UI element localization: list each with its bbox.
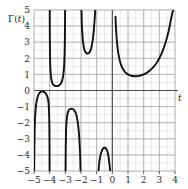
x-tick-label: −4 xyxy=(43,175,57,185)
y-tick-label: −4 xyxy=(17,150,31,160)
y-axis-tick-labels: −5−4−3−2−1012345 xyxy=(17,5,31,176)
chart-canvas: −5−4−3−2−101234 −5−4−3−2−1012345 Γ(t) t xyxy=(0,0,188,189)
x-tick-label: −1 xyxy=(90,175,103,185)
tick-marks xyxy=(34,171,175,174)
y-tick-label: −5 xyxy=(17,166,31,176)
x-tick-label: 2 xyxy=(141,175,147,185)
y-tick-label: −3 xyxy=(17,134,31,144)
x-axis-tick-labels: −5−4−3−2−101234 xyxy=(27,175,178,185)
x-tick-label: 4 xyxy=(172,175,178,185)
gamma-function-chart: −5−4−3−2−101234 −5−4−3−2−1012345 Γ(t) t xyxy=(0,0,188,189)
x-tick-label: −2 xyxy=(74,175,87,185)
x-tick-label: 0 xyxy=(109,175,115,185)
y-tick-label: 4 xyxy=(24,21,30,31)
y-tick-label: 3 xyxy=(24,37,30,47)
y-tick-label: 2 xyxy=(24,54,30,64)
y-tick-label: −1 xyxy=(17,102,30,112)
y-tick-label: 5 xyxy=(24,5,30,15)
y-axis-label: Γ(t) xyxy=(8,14,25,24)
x-tick-label: 1 xyxy=(125,175,131,185)
x-tick-label: 3 xyxy=(156,175,162,185)
y-tick-label: −2 xyxy=(17,118,30,128)
x-axis-label: t xyxy=(178,93,182,103)
y-tick-label: 1 xyxy=(24,70,30,80)
x-tick-label: −3 xyxy=(59,175,73,185)
x-tick-label: −5 xyxy=(27,175,41,185)
y-tick-label: 0 xyxy=(24,86,30,96)
